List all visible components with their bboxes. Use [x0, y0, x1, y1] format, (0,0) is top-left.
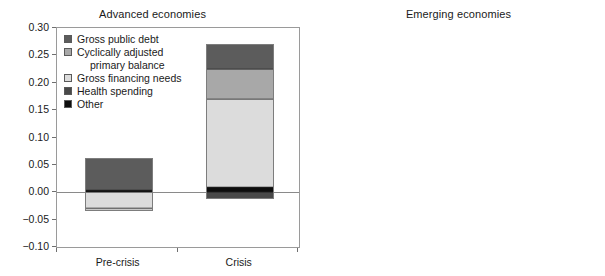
legend-item[interactable]: Other: [64, 98, 181, 111]
y-axis-label: 0.20: [8, 77, 49, 87]
x-axis-label: Pre-crisis: [96, 256, 140, 268]
legend-item[interactable]: Cyclically adjusted: [64, 46, 181, 59]
bar-segment: [206, 69, 274, 100]
legend-label: Health spending: [77, 85, 153, 98]
y-axis-advanced: 0.300.250.200.150.100.050.00−0.05−0.10: [8, 27, 56, 248]
legend-swatch-icon: [64, 100, 72, 108]
x-axis-tick: [177, 248, 178, 252]
bar-crisis: [206, 28, 274, 247]
y-axis-label: 0.25: [8, 49, 49, 59]
bar-segment: [85, 208, 153, 211]
chart-panel-advanced-economies: Advanced economies 0.300.250.200.150.100…: [0, 0, 305, 276]
legend-item[interactable]: Health spending: [64, 85, 181, 98]
legend-item[interactable]: Gross public debt: [64, 33, 181, 46]
bar-segment: [85, 158, 153, 190]
chart-title-advanced: Advanced economies: [0, 8, 305, 20]
chart-title-emerging: Emerging economies: [300, 8, 605, 20]
y-axis-label: 0.10: [8, 132, 49, 142]
x-axis-tick: [56, 248, 57, 252]
legend-label: Gross public debt: [77, 33, 159, 46]
legend-swatch-icon: [64, 74, 72, 82]
legend-label: Gross financing needs: [77, 72, 181, 85]
y-axis-label: −0.10: [8, 241, 49, 251]
y-axis-label: 0.05: [8, 159, 49, 169]
x-axis-tick: [297, 248, 298, 252]
legend-swatch-icon: [64, 87, 72, 95]
y-axis-label: 0.30: [8, 22, 49, 32]
legend-label: Cyclically adjusted: [77, 46, 163, 59]
bar-segment: [206, 192, 274, 199]
y-axis-label: 0.00: [8, 186, 49, 196]
legend-item[interactable]: Gross financing needs: [64, 72, 181, 85]
figure-root: Advanced economies 0.300.250.200.150.100…: [0, 0, 605, 276]
x-axis-advanced: Pre-crisisCrisis: [56, 248, 300, 272]
y-axis-label: 0.15: [8, 104, 49, 114]
x-axis-label: Crisis: [226, 256, 252, 268]
legend-label-continuation: primary balance: [64, 59, 181, 72]
chart-panel-emerging-economies: Emerging economies 0.300.250.200.150.100…: [300, 0, 605, 276]
legend-swatch-icon: [64, 35, 72, 43]
bar-segment: [206, 99, 274, 187]
bar-segment: [206, 44, 274, 69]
legend-advanced: Gross public debtCyclically adjustedprim…: [64, 33, 181, 111]
bar-segment: [85, 192, 153, 208]
legend-label: Other: [77, 98, 103, 111]
legend-swatch-icon: [64, 48, 72, 56]
y-axis-label: −0.05: [8, 214, 49, 224]
